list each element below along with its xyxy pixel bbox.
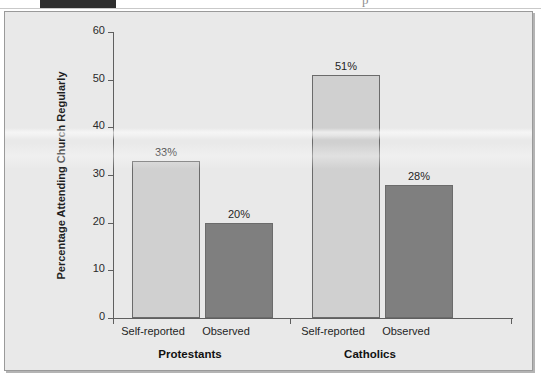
- x-axis-line: [113, 318, 513, 319]
- x-tick-start: [113, 319, 114, 324]
- bar-protestants-observed: [205, 223, 273, 318]
- x-tick-end: [511, 319, 512, 324]
- x-tick-middle: [290, 319, 291, 324]
- frame-shadow-right: [533, 13, 535, 373]
- frame-shadow-bottom: [6, 371, 535, 373]
- page-hairline: [0, 8, 541, 9]
- bar-label-catholics-self-reported: 51%: [312, 60, 380, 72]
- chart-page: p Percentage Attending Church Regularly …: [0, 0, 541, 382]
- bar-catholics-self-reported: [312, 75, 380, 318]
- bar-protestants-self-reported: [132, 161, 200, 318]
- x-label-protestants-observed: Observed: [166, 325, 286, 337]
- group-label-protestants: Protestants: [130, 348, 250, 360]
- bar-catholics-observed: [385, 185, 453, 319]
- clipped-text-artifact: p: [362, 0, 369, 6]
- y-axis-line: [113, 32, 114, 319]
- bar-label-protestants-self-reported: 33%: [132, 146, 200, 158]
- plot-area: 0 10 20 30 40 50 60 3: [113, 32, 513, 319]
- group-label-catholics: Catholics: [310, 348, 430, 360]
- x-label-catholics-observed: Observed: [346, 325, 466, 337]
- scan-artifact-dark-block: [40, 0, 116, 8]
- bar-label-catholics-observed: 28%: [385, 170, 453, 182]
- y-axis-title: Percentage Attending Church Regularly: [54, 32, 68, 319]
- bar-label-protestants-observed: 20%: [205, 208, 273, 220]
